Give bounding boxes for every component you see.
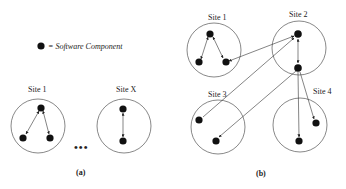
panel-b-site-1: Site 1 [187,13,241,77]
component-node [37,104,44,111]
site-label: Site 3 [208,90,226,99]
component-node [294,30,302,38]
site-label: Site X [116,85,136,94]
component-node [19,134,26,141]
connection-edge [298,72,299,137]
connection-edge [43,111,49,134]
panel-a-site-1: Site 1 [11,85,65,153]
legend-component-icon [37,42,44,49]
site-boundary [187,23,241,77]
connection-edge [300,72,314,119]
component-node [195,58,202,65]
component-node [295,137,302,144]
component-node [212,137,219,144]
component-node [119,137,126,144]
component-node [294,64,302,72]
site-boundary [191,100,245,154]
connection-edge [203,38,294,117]
panel-a-site-x: Site X [97,85,151,153]
legend: = Software Component [37,42,123,51]
component-node [119,105,126,112]
panel-b-site-2: Site 2 [272,10,326,75]
connection-edge [26,111,39,134]
panel-b: Site 1 Site 2 Site 3 Site 4 [187,10,331,178]
distributed-software-diagram: = Software Component Site 1 ••• Site X (… [0,0,346,189]
component-node [312,119,319,126]
component-node [46,134,53,141]
panel-a: = Software Component Site 1 ••• Site X (… [11,42,151,177]
panel-b-caption: (b) [256,169,266,178]
panel-b-site-4: Site 4 [273,87,331,152]
component-node [206,30,213,37]
connection-edge [213,37,223,58]
site-label: Site 2 [289,10,307,19]
site-label: Site 1 [28,85,46,94]
component-node [195,116,202,123]
site-label: Site 1 [208,13,226,22]
legend-text: = Software Component [48,42,123,51]
ellipsis: ••• [74,141,89,153]
panel-a-caption: (a) [76,168,86,177]
connection-edge [219,71,296,137]
connection-edge [201,37,208,59]
component-node [222,58,229,65]
site-label: Site 4 [313,87,331,96]
